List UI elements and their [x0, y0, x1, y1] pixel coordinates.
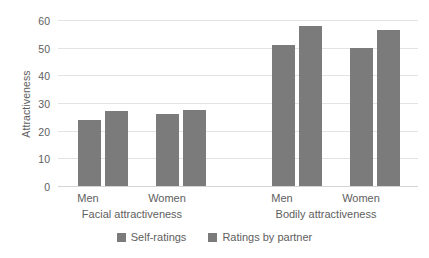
y-tick-50: 50: [10, 44, 50, 55]
group-label-bodily: Bodily attractiveness: [252, 208, 400, 220]
y-tick-0: 0: [10, 182, 50, 193]
category-label-bodily-men: Men: [257, 192, 307, 204]
y-tick-40: 40: [10, 71, 50, 82]
bar-facial-women-self: [156, 114, 179, 186]
legend-item-self-ratings[interactable]: Self-ratings: [117, 231, 187, 243]
legend-swatch-icon: [117, 233, 126, 242]
chart-legend: Self-ratings Ratings by partner: [0, 231, 429, 243]
category-label-bodily-women: Women: [331, 192, 391, 204]
bar-facial-men-partner: [105, 111, 128, 186]
bar-bodily-men-self: [272, 45, 295, 186]
bar-facial-men-self: [78, 120, 101, 186]
y-tick-30: 30: [10, 99, 50, 110]
legend-label-self-ratings: Self-ratings: [131, 231, 187, 243]
bar-chart: Attractiveness 60 50 40 30 20 10 0 Men W…: [0, 0, 429, 258]
legend-swatch-icon: [208, 233, 217, 242]
group-label-facial: Facial attractiveness: [58, 208, 206, 220]
category-label-facial-women: Women: [137, 192, 197, 204]
bar-bodily-women-partner: [377, 30, 400, 186]
bar-bodily-women-self: [350, 48, 373, 186]
bar-facial-women-partner: [183, 110, 206, 186]
legend-label-ratings-by-partner: Ratings by partner: [222, 231, 312, 243]
y-tick-20: 20: [10, 127, 50, 138]
x-axis-line: [58, 186, 418, 187]
y-axis-tick-labels: 60 50 40 30 20 10 0: [8, 20, 54, 186]
gridline-60: [58, 20, 418, 21]
category-label-facial-men: Men: [63, 192, 113, 204]
y-tick-10: 10: [10, 154, 50, 165]
bar-bodily-men-partner: [299, 26, 322, 187]
legend-item-ratings-by-partner[interactable]: Ratings by partner: [208, 231, 312, 243]
y-tick-60: 60: [10, 16, 50, 27]
plot-area: [58, 20, 418, 186]
